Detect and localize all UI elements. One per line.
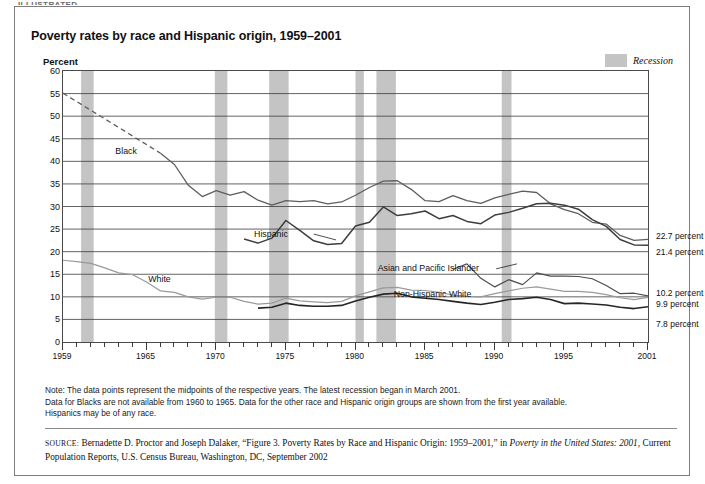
x-tickmark-1996 [577, 342, 578, 347]
x-tickmark-1995 [563, 342, 564, 350]
x-tick-2001: 2001 [638, 351, 657, 361]
x-tick-1965: 1965 [136, 351, 155, 361]
note-line-3: Hispanics may be of any race. [45, 408, 675, 420]
annotation-leader-line [314, 234, 336, 240]
x-tickmark-2000 [633, 342, 634, 347]
x-tick-1970: 1970 [206, 351, 225, 361]
figure-title: Poverty rates by race and Hispanic origi… [31, 29, 341, 43]
x-tickmark-1989 [480, 342, 481, 347]
x-tick-1980: 1980 [345, 351, 364, 361]
y-tick-5: 5 [30, 314, 60, 324]
chart-legend: Recession [605, 54, 673, 67]
note-line-2: Data for Blacks are not available from 1… [45, 397, 675, 409]
y-tick-60: 60 [30, 66, 60, 76]
x-tickmark-1980 [355, 342, 356, 350]
source-text-1: Bernadette D. Proctor and Joseph Dalaker… [79, 438, 509, 448]
x-tickmark-1975 [285, 342, 286, 350]
x-tick-1975: 1975 [275, 351, 294, 361]
x-tick-1985: 1985 [415, 351, 434, 361]
annotation-hispanic: Hispanic [254, 229, 288, 239]
x-tick-1959: 1959 [53, 351, 72, 361]
x-tickmark-1960 [76, 342, 77, 347]
x-tickmark-1962 [104, 342, 105, 347]
x-tickmark-1983 [396, 342, 397, 347]
x-tickmark-1978 [327, 342, 328, 347]
y-tick-40: 40 [30, 156, 60, 166]
plot-area-wrapper: 051015202530354045505560 195919651970197… [48, 70, 655, 367]
note-line-1: Note: The data points represent the midp… [45, 385, 675, 397]
series-line-hispanic [244, 203, 648, 245]
series-line-black [161, 153, 649, 240]
x-tickmark-1968 [187, 342, 188, 347]
x-tickmark-1976 [299, 342, 300, 347]
series-line-dashed-black [63, 93, 161, 153]
y-tick-25: 25 [30, 224, 60, 234]
x-tickmark-1970 [215, 342, 216, 350]
y-tick-15: 15 [30, 269, 60, 279]
x-tickmark-1991 [508, 342, 509, 347]
x-tickmark-1990 [494, 342, 495, 350]
x-tickmark-1982 [382, 342, 383, 347]
figure-source: SOURCE: Bernadette D. Proctor and Joseph… [45, 437, 679, 463]
x-tickmark-1988 [466, 342, 467, 347]
source-label: SOURCE: [45, 439, 79, 448]
x-tickmark-1963 [118, 342, 119, 347]
x-tickmark-1961 [90, 342, 91, 347]
chart-svg [63, 71, 648, 342]
x-tick-1995: 1995 [554, 351, 573, 361]
annotation-black: Black [115, 146, 137, 156]
y-tick-35: 35 [30, 179, 60, 189]
end-label-black: 22.7 percent [656, 231, 703, 241]
x-tickmark-1981 [368, 342, 369, 347]
y-tick-20: 20 [30, 247, 60, 257]
y-tick-0: 0 [30, 337, 60, 347]
x-tickmark-1969 [201, 342, 202, 347]
annotation-non-hispanic-white: Non-Hispanic White [394, 289, 472, 299]
x-tickmark-1997 [591, 342, 592, 347]
y-tick-50: 50 [30, 111, 60, 121]
recession-legend-label: Recession [633, 55, 673, 66]
x-tickmark-1999 [619, 342, 620, 347]
y-tick-45: 45 [30, 134, 60, 144]
x-tickmark-1966 [160, 342, 161, 347]
x-tickmark-1986 [438, 342, 439, 347]
x-tickmark-1959 [62, 342, 63, 350]
x-tickmark-1965 [146, 342, 147, 350]
x-tickmark-1967 [173, 342, 174, 347]
series-line-asian-and-pacific-islander [453, 264, 648, 296]
figure-frame: Poverty rates by race and Hispanic origi… [14, 6, 690, 476]
x-tickmark-1979 [341, 342, 342, 347]
x-tickmark-1974 [271, 342, 272, 347]
end-label-hispanic: 21.4 percent [656, 247, 703, 257]
y-tick-30: 30 [30, 202, 60, 212]
x-tickmark-1971 [229, 342, 230, 347]
x-tickmark-1973 [257, 342, 258, 347]
x-tickmark-1998 [605, 342, 606, 347]
x-tickmark-1985 [424, 342, 425, 350]
end-label-white: 9.9 percent [656, 299, 699, 309]
source-italic-title: Poverty in the United States: 2001 [509, 438, 637, 448]
page-header-cutoff-text: ILLUSTRATED [18, 0, 128, 5]
x-tickmark-1993 [536, 342, 537, 347]
recession-swatch [605, 54, 627, 67]
x-tickmark-1972 [243, 342, 244, 347]
x-tickmark-1977 [313, 342, 314, 347]
plot-area [62, 70, 649, 343]
x-tickmark-1964 [132, 342, 133, 347]
end-label-asian-and-pacific-islander: 10.2 percent [656, 288, 703, 298]
figure-notes: Note: The data points represent the midp… [45, 385, 675, 420]
x-tickmark-2001 [647, 342, 648, 350]
annotation-white: White [148, 274, 171, 284]
x-tickmark-1984 [410, 342, 411, 347]
x-tickmark-1987 [452, 342, 453, 347]
source-divider [45, 428, 677, 429]
y-tick-55: 55 [30, 89, 60, 99]
x-tick-1990: 1990 [484, 351, 503, 361]
end-label-non-hispanic-white: 7.8 percent [656, 319, 699, 329]
x-tickmark-1992 [522, 342, 523, 347]
y-tick-10: 10 [30, 292, 60, 302]
annotation-asian-and-pacific-islander: Asian and Pacific Islander [378, 263, 479, 273]
x-tickmark-1994 [550, 342, 551, 347]
